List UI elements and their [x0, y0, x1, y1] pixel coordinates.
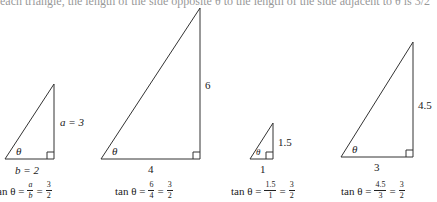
formula-prefix: tan θ = — [341, 185, 371, 197]
angle-label-3: θ — [256, 148, 260, 157]
tan-formula-3: tan θ = 1.51 = 32 — [231, 181, 295, 200]
fraction-1.5-over-1: 1.51 — [264, 181, 276, 200]
equals-sign: = — [36, 185, 42, 197]
angle-label-1: θ — [16, 146, 21, 157]
opposite-label-1-text: a = 3 — [60, 116, 84, 128]
fraction-3-over-2: 32 — [289, 181, 295, 200]
fraction-3-over-2: 32 — [399, 181, 405, 200]
right-angle-marker-2 — [193, 152, 200, 159]
formula-prefix: tan θ = — [231, 185, 261, 197]
equals-sign: = — [279, 185, 285, 197]
triangle-3 — [250, 123, 273, 159]
adjacent-label-4: 3 — [374, 162, 380, 173]
adjacent-label-1: b = 2 — [15, 165, 39, 176]
tan-formula-1: tan θ = ab = 32 — [0, 181, 52, 200]
fraction-3-over-2: 32 — [46, 181, 52, 200]
triangle-2 — [101, 8, 200, 159]
right-angle-marker-4 — [406, 150, 413, 157]
tan-formula-2: tan θ = 64 = 32 — [115, 181, 173, 200]
fraction-a-over-b: ab — [27, 181, 33, 200]
triangle-4 — [341, 42, 413, 157]
adjacent-label-3: 1 — [260, 164, 266, 175]
tan-formula-4: tan θ = 4.53 = 32 — [341, 181, 405, 200]
adjacent-label-2: 4 — [148, 164, 154, 175]
fraction-4.5-over-3: 4.53 — [374, 181, 386, 200]
triangle-1 — [5, 84, 54, 159]
opposite-label-2: 6 — [205, 80, 211, 91]
right-angle-marker-1 — [47, 152, 54, 159]
opposite-label-3: 1.5 — [278, 137, 292, 148]
angle-label-2: θ — [112, 146, 117, 157]
opposite-label-1: a = 3 — [60, 117, 84, 128]
opposite-label-4: 4.5 — [418, 100, 432, 111]
angle-label-4: θ — [352, 144, 357, 155]
equals-sign: = — [389, 185, 395, 197]
equals-sign: = — [157, 185, 163, 197]
fraction-3-over-2: 32 — [167, 181, 173, 200]
triangles-figure — [0, 0, 437, 202]
right-angle-marker-3 — [266, 152, 273, 159]
fraction-6-over-4: 64 — [148, 181, 154, 200]
formula-prefix: tan θ = — [0, 185, 24, 197]
formula-prefix: tan θ = — [115, 185, 145, 197]
